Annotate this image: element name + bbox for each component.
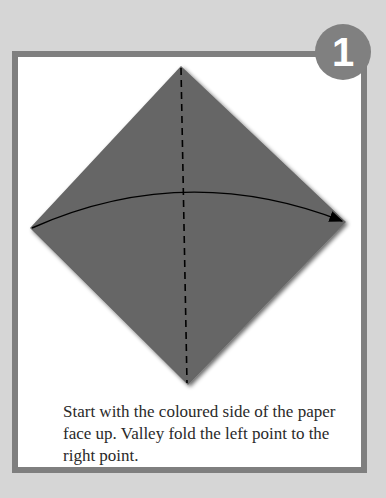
paper-diamond: [30, 66, 346, 385]
step-number-badge: 1: [315, 24, 371, 80]
step-instruction: Start with the coloured side of the pape…: [63, 401, 348, 467]
